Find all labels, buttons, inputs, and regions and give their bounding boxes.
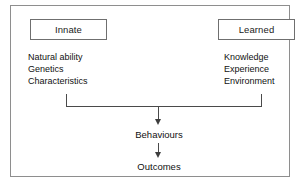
arrow-to-outcomes-head-icon xyxy=(155,152,161,158)
list-item: Experience xyxy=(224,63,275,75)
diagram-canvas: Innate Learned Natural ability Genetics … xyxy=(0,0,302,188)
attribute-list-learned: Knowledge Experience Environment xyxy=(224,51,275,88)
arrow-to-behaviours-head-icon xyxy=(155,119,161,125)
heading-label-innate: Innate xyxy=(55,24,82,35)
attribute-list-innate: Natural ability Genetics Characteristics xyxy=(28,51,88,88)
list-item: Knowledge xyxy=(224,51,275,63)
heading-box-innate: Innate xyxy=(30,19,107,40)
flow-node-outcomes: Outcomes xyxy=(137,161,180,172)
connector-bracket-cross-bar xyxy=(66,106,262,107)
heading-label-learned: Learned xyxy=(239,24,275,35)
flow-node-behaviours: Behaviours xyxy=(135,129,183,140)
list-item: Natural ability xyxy=(28,51,88,63)
heading-box-learned: Learned xyxy=(218,19,295,40)
list-item: Environment xyxy=(224,75,275,87)
list-item: Characteristics xyxy=(28,75,88,87)
list-item: Genetics xyxy=(28,63,88,75)
diagram-outer-frame: Innate Learned Natural ability Genetics … xyxy=(10,5,290,177)
arrow-to-behaviours-stem xyxy=(158,106,159,120)
